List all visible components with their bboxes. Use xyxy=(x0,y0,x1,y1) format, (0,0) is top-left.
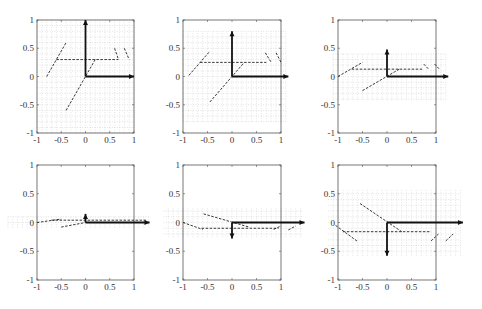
x-tick-label: 0 xyxy=(83,282,88,292)
x-tick-label: -0.5 xyxy=(355,282,370,292)
y-tick-label: 1 xyxy=(331,160,336,170)
y-tick-label: -0.5 xyxy=(20,246,35,256)
arrowhead-icon xyxy=(230,31,235,36)
basis-arrows xyxy=(230,31,289,79)
x-tick-label: 0.5 xyxy=(406,282,418,292)
y-tick-label: 0 xyxy=(30,72,35,82)
x-tick-label: 0 xyxy=(83,135,88,145)
y-tick-label: 1 xyxy=(30,160,35,170)
y-tick-label: -1 xyxy=(173,275,181,285)
subplot-2: -1-0.500.5110.50-0.5-1 xyxy=(166,15,289,145)
x-tick-label: 0 xyxy=(385,135,390,145)
y-tick-label: 1 xyxy=(331,15,336,25)
x-tick-label: -1 xyxy=(33,135,41,145)
subplot-grid: -1-0.500.5110.50-0.5-1-1-0.500.5110.50-0… xyxy=(8,15,463,292)
y-tick-label: -1 xyxy=(173,128,181,138)
arrowhead-icon xyxy=(230,234,235,239)
x-tick-label: -0.5 xyxy=(200,282,215,292)
x-tick-label: 0 xyxy=(385,282,390,292)
x-tick-label: -1 xyxy=(334,135,342,145)
x-tick-label: 0.5 xyxy=(406,135,418,145)
x-tick-label: -0.5 xyxy=(54,282,69,292)
x-tick-label: 0 xyxy=(230,282,235,292)
x-tick-label: 1 xyxy=(132,135,137,145)
basis-arrows xyxy=(230,220,305,239)
y-tick-label: -0.5 xyxy=(20,100,35,110)
x-tick-label: 0.5 xyxy=(104,135,116,145)
arrowhead-icon xyxy=(129,74,134,79)
y-tick-label: -0.5 xyxy=(321,246,336,256)
x-tick-label: 0.5 xyxy=(104,282,116,292)
y-tick-label: 0.5 xyxy=(169,43,181,53)
y-tick-label: -0.5 xyxy=(166,100,181,110)
x-tick-label: 1 xyxy=(434,282,439,292)
y-tick-label: 1 xyxy=(176,15,181,25)
y-tick-label: -1 xyxy=(328,275,336,285)
y-tick-label: 0 xyxy=(176,72,181,82)
basis-arrows xyxy=(83,20,134,79)
figure-canvas: -1-0.500.5110.50-0.5-1-1-0.500.5110.50-0… xyxy=(0,0,482,309)
y-tick-label: -0.5 xyxy=(321,100,336,110)
x-tick-label: 1 xyxy=(279,135,284,145)
y-tick-label: 0.5 xyxy=(23,189,35,199)
arrowhead-icon xyxy=(300,220,305,225)
arrowhead-icon xyxy=(385,49,390,54)
x-tick-label: 1 xyxy=(434,135,439,145)
y-tick-label: 0 xyxy=(176,218,181,228)
x-tick-label: -0.5 xyxy=(200,135,215,145)
x-tick-label: 1 xyxy=(279,282,284,292)
x-tick-label: 1 xyxy=(132,282,137,292)
x-tick-label: -1 xyxy=(179,282,187,292)
basis-arrows xyxy=(83,214,150,225)
y-tick-label: -1 xyxy=(27,128,35,138)
arrowhead-icon xyxy=(385,251,390,256)
y-tick-label: 0.5 xyxy=(324,43,336,53)
subplot-6: -1-0.500.5110.50-0.5-1 xyxy=(321,160,463,292)
y-tick-label: -1 xyxy=(27,275,35,285)
y-tick-label: 0 xyxy=(331,218,336,228)
y-tick-label: -1 xyxy=(328,128,336,138)
arrowhead-icon xyxy=(83,214,88,219)
basis-arrows xyxy=(385,220,463,256)
y-tick-label: 1 xyxy=(176,160,181,170)
x-tick-label: -0.5 xyxy=(54,135,69,145)
x-tick-label: 0.5 xyxy=(251,282,263,292)
x-tick-label: -0.5 xyxy=(355,135,370,145)
subplot-5: -1-0.500.5110.50-0.5-1 xyxy=(163,160,304,292)
subplot-4: -1-0.500.5110.50-0.5-1 xyxy=(8,160,150,292)
y-tick-label: 1 xyxy=(30,15,35,25)
x-tick-label: 0 xyxy=(230,135,235,145)
x-tick-label: 0.5 xyxy=(251,135,263,145)
y-tick-label: 0 xyxy=(30,218,35,228)
x-tick-label: -1 xyxy=(334,282,342,292)
y-tick-label: 0.5 xyxy=(324,189,336,199)
y-tick-label: 0.5 xyxy=(23,43,35,53)
subplot-1: -1-0.500.5110.50-0.5-1 xyxy=(20,15,137,145)
x-tick-label: -1 xyxy=(179,135,187,145)
subplot-3: -1-0.500.5110.50-0.5-1 xyxy=(321,15,449,145)
y-tick-label: 0 xyxy=(331,72,336,82)
x-tick-label: -1 xyxy=(33,282,41,292)
arrowhead-icon xyxy=(83,20,88,25)
y-tick-label: -0.5 xyxy=(166,246,181,256)
y-tick-label: 0.5 xyxy=(169,189,181,199)
